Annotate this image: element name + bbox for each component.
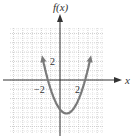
y-tick-label-2: 2 [50,56,55,67]
y-axis-label: f(x) [53,1,69,14]
x-tick-label-neg2: −2 [34,84,45,95]
parabola-graph: f(x) x −2 2 2 [0,0,133,136]
x-axis-arrow-icon [114,77,122,83]
x-axis-label: x [124,74,130,86]
curve-right-arrow-icon [87,55,93,62]
y-axis-arrow-icon [57,14,63,22]
parabola-curve [43,59,90,113]
x-tick-label-2: 2 [75,84,80,95]
